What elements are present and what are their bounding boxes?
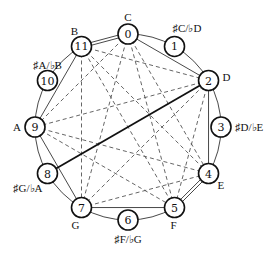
note-name-label: A [13,121,21,133]
node-number: 6 [125,214,132,227]
node-number: 4 [205,168,212,181]
note-name-label: D [223,71,231,83]
dashed-edge-11-2 [82,46,209,80]
node-number: 9 [32,121,39,134]
pitch-node-10: 10♯A/♭B [33,59,62,91]
pitch-nodes: 0C1♯C/♭D2D3♯D/♭E4E5F6♯F/♭G7G8♯G/♭A9A10♯A… [13,11,263,245]
node-number: 1 [171,40,178,53]
pitch-node-8: 8♯G/♭A [13,164,57,194]
note-name-label: ♯C/♭D [173,22,202,34]
interval-edges [35,33,216,209]
note-name-label: ♯F/♭G [114,233,142,245]
node-number: 8 [44,168,51,181]
pitch-node-2: 2D [199,71,231,91]
node-number: 11 [75,40,89,53]
pitch-node-7: 7G [72,198,92,231]
pitch-node-5: 5F [165,198,185,231]
pitch-node-6: 6♯F/♭G [114,210,142,245]
node-number: 2 [205,75,212,88]
dashed-edge-0-7 [82,34,129,208]
node-number: 3 [218,121,225,134]
note-name-label: ♯D/♭E [235,121,264,133]
node-number: 10 [40,75,54,88]
node-number: 5 [171,202,178,215]
dashed-edge-2-7 [82,81,209,208]
dashed-edge-11-4 [82,46,209,173]
node-number: 0 [125,28,132,41]
note-name-label: ♯G/♭A [13,182,43,194]
node-number: 7 [78,202,85,215]
tritone-edge-2-8 [40,76,217,178]
pitch-node-11: 11B [71,25,92,56]
note-name-label: G [72,219,80,231]
pitch-node-1: 1♯C/♭D [165,22,202,56]
pitch-class-circle: 0C1♯C/♭D2D3♯D/♭E4E5F6♯F/♭G7G8♯G/♭A9A10♯A… [0,0,274,256]
pitch-node-0: 0C [118,11,138,44]
note-name-label: F [170,219,176,231]
note-name-label: B [71,25,78,37]
note-name-label: C [124,11,131,23]
chromatic-circle-diagram: 0C1♯C/♭D2D3♯D/♭E4E5F6♯F/♭G7G8♯G/♭A9A10♯A… [0,0,274,256]
dashed-edge-2-9 [35,81,209,128]
pitch-node-9: 9A [13,117,45,137]
dashed-edge-0-5 [128,34,175,208]
pitch-node-4: 4E [199,164,225,191]
note-name-label: ♯A/♭B [33,59,62,71]
note-name-label: E [218,179,225,191]
pitch-node-3: 3♯D/♭E [211,117,264,137]
